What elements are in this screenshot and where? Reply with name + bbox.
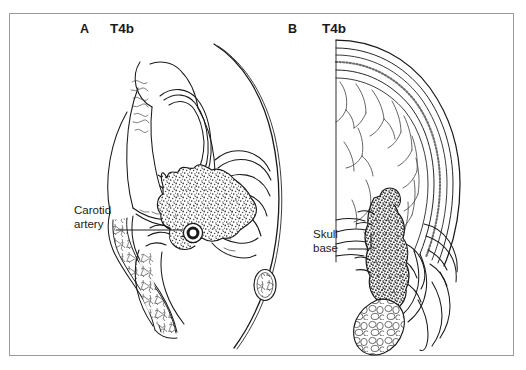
- figure-frame: [9, 13, 514, 356]
- carotid-artery-annotation: Carotid artery: [74, 204, 111, 231]
- carotid-annotation-line2: artery: [74, 218, 111, 232]
- panel-b-stage-label: T4b: [322, 21, 346, 36]
- skull-base-annotation: Skull base: [313, 228, 338, 255]
- skullbase-annotation-line1: Skull: [313, 228, 338, 242]
- figure-root: A T4b B T4b Carotid artery Skull base: [0, 0, 526, 370]
- panel-a-letter: A: [80, 22, 89, 36]
- panel-a-stage-label: T4b: [110, 21, 134, 36]
- panel-b-letter: B: [288, 22, 297, 36]
- skullbase-annotation-line2: base: [313, 242, 338, 256]
- carotid-annotation-line1: Carotid: [74, 204, 111, 218]
